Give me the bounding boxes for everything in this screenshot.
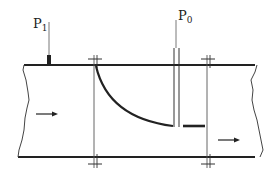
outlet-flow-arrow: [218, 138, 240, 143]
pipe-diagram: P1 P0: [0, 0, 278, 176]
bent-vane-curve: [96, 66, 173, 126]
left-break-line: [18, 65, 29, 157]
right-flange: [201, 55, 215, 168]
inlet-flow-arrow: [36, 112, 58, 117]
p1-wall-tap: [47, 22, 51, 65]
p0-label: P0: [178, 8, 193, 25]
left-flange: [88, 55, 102, 168]
p0-pitot-probe: [174, 20, 205, 127]
p1-label: P1: [33, 16, 47, 33]
right-break-line: [251, 65, 263, 157]
